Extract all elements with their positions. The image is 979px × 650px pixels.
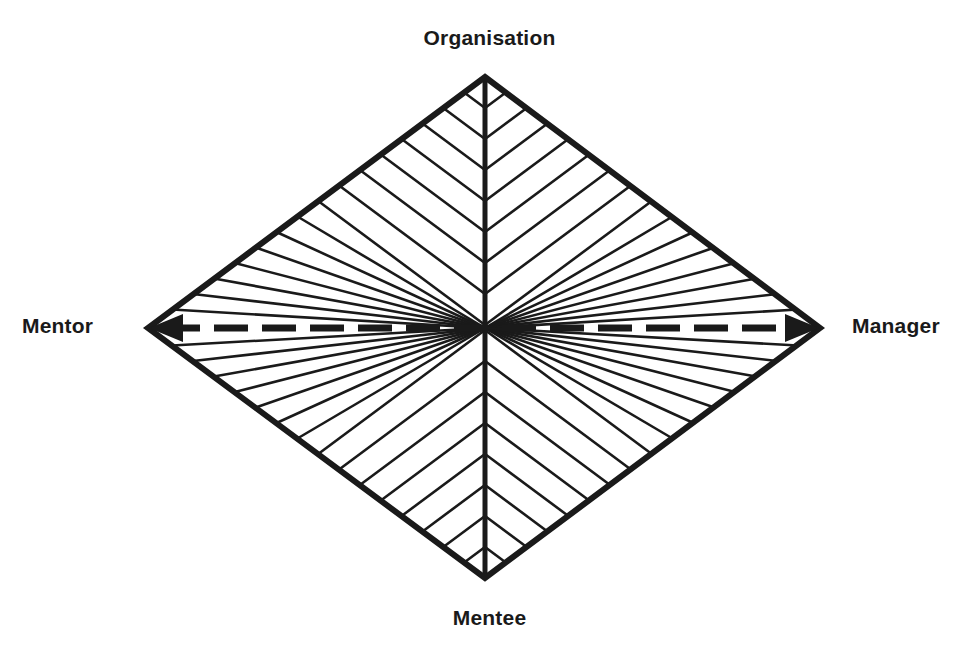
axis-label-top: Organisation <box>0 26 979 50</box>
axis-label-left: Mentor <box>22 314 93 338</box>
hatch-group-lower-right <box>485 328 798 563</box>
hatch-group-upper-right <box>485 93 798 329</box>
axis-label-bottom: Mentee <box>0 606 979 630</box>
diamond-diagram <box>0 0 979 650</box>
hatch-group-upper-left <box>172 93 485 329</box>
hatch-group-lower-left <box>172 328 485 563</box>
axis-label-right: Manager <box>852 314 940 338</box>
diagram-canvas: Organisation Mentor Manager Mentee <box>0 0 979 650</box>
